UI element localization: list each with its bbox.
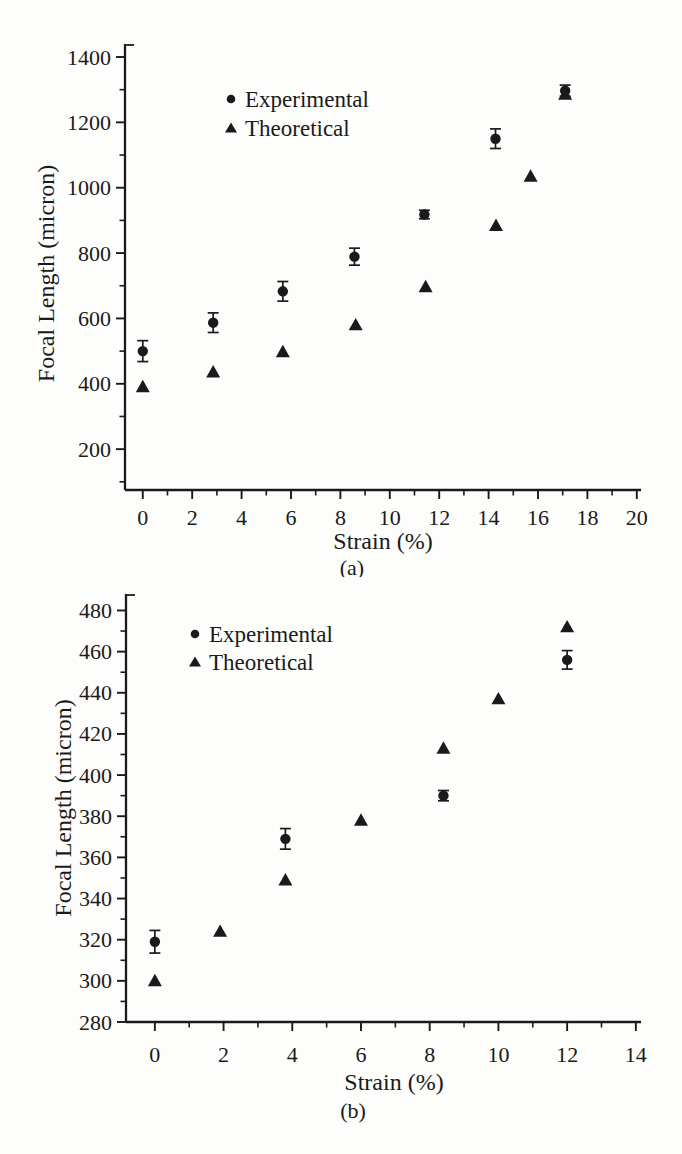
data-point-circle [419,209,429,219]
x-tick-label: 14 [478,505,500,530]
x-tick-label: 12 [556,1042,578,1067]
y-tick-label: 340 [79,886,112,911]
y-tick-label: 1000 [67,175,111,200]
y-tick-label: 600 [78,306,111,331]
legend-label: Experimental [245,87,369,112]
y-tick-label: 400 [79,763,112,788]
chart-b: 2803003203403603804004204404604800246810… [0,581,682,1154]
data-point-circle [150,937,160,947]
y-tick-label: 380 [79,804,112,829]
legend-triangle-marker [225,123,237,133]
data-point-triangle [278,873,292,885]
axes [125,44,641,490]
series-experimental [137,85,570,361]
series-theoretical [136,87,572,392]
legend-triangle-marker [189,657,201,667]
x-tick-label: 16 [527,505,549,530]
data-point-circle [490,133,500,143]
x-tick-label: 8 [335,505,346,530]
x-tick-label: 0 [149,1042,160,1067]
y-tick-label: 400 [78,371,111,396]
x-tick-label: 4 [287,1042,298,1067]
x-axis-label: Strain (%) [333,528,432,554]
x-tick-label: 2 [187,505,198,530]
data-point-triangle [491,692,505,704]
x-tick-label: 12 [428,505,450,530]
y-tick-label: 800 [78,241,111,266]
data-point-triangle [136,380,150,392]
x-axis-label: Strain (%) [344,1069,443,1095]
legend: ExperimentalTheoretical [225,87,369,141]
x-axis: 02468101214 [149,1022,646,1067]
y-tick-label: 480 [79,598,112,623]
x-tick-label: 0 [137,505,148,530]
x-tick-label: 8 [424,1042,435,1067]
panel-caption: (a) [340,555,364,578]
data-point-triangle [560,620,574,632]
y-tick-label: 360 [79,845,112,870]
data-point-triangle [349,318,363,330]
y-axis-label: Focal Length (micron) [50,699,76,916]
chart-a: 2004006008001000120014000246810121416182… [0,0,682,581]
panel-caption: (b) [340,1098,366,1123]
x-axis: 02468101214161820 [137,490,648,530]
y-tick-label: 320 [79,927,112,952]
x-tick-label: 6 [355,1042,366,1067]
data-point-circle [208,317,218,327]
legend-label: Experimental [209,622,333,647]
chart-b-canvas: 2803003203403603804004204404604800246810… [0,581,682,1154]
data-point-circle [562,655,572,665]
y-axis: 200400600800100012001400 [67,45,125,482]
y-tick-label: 1200 [67,110,111,135]
legend-label: Theoretical [209,650,314,675]
x-tick-label: 10 [487,1042,509,1067]
two-panel-figure: 2004006008001000120014000246810121416182… [0,0,682,1154]
data-point-circle [280,834,290,844]
x-tick-label: 14 [625,1042,647,1067]
chart-a-canvas: 2004006008001000120014000246810121416182… [0,0,682,577]
y-tick-label: 440 [79,680,112,705]
x-tick-label: 18 [576,505,598,530]
series-experimental [149,651,572,953]
y-tick-label: 280 [79,1010,112,1035]
data-point-triangle [436,741,450,753]
x-tick-label: 4 [236,505,247,530]
data-point-circle [278,286,288,296]
data-point-triangle [213,924,227,936]
y-axis: 280300320340360380400420440460480 [79,598,126,1035]
x-tick-label: 10 [379,505,401,530]
y-tick-label: 460 [79,639,112,664]
x-tick-label: 2 [218,1042,229,1067]
y-axis-label: Focal Length (micron) [33,165,59,382]
series-theoretical [148,620,574,986]
data-point-triangle [206,365,220,377]
legend-circle-marker [191,630,200,639]
y-tick-label: 200 [78,437,111,462]
data-point-circle [438,790,448,800]
y-tick-label: 420 [79,721,112,746]
y-tick-label: 300 [79,968,112,993]
legend-circle-marker [227,95,236,104]
data-point-triangle [419,280,433,292]
x-tick-label: 6 [285,505,296,530]
data-point-triangle [524,169,538,181]
data-point-circle [349,251,359,261]
legend: ExperimentalTheoretical [189,622,333,675]
y-tick-label: 1400 [67,45,111,70]
data-point-triangle [489,219,503,231]
x-tick-label: 20 [626,505,648,530]
data-point-triangle [148,974,162,986]
data-point-triangle [354,813,368,825]
data-point-circle [138,346,148,356]
legend-label: Theoretical [245,116,350,141]
data-point-triangle [276,345,290,357]
